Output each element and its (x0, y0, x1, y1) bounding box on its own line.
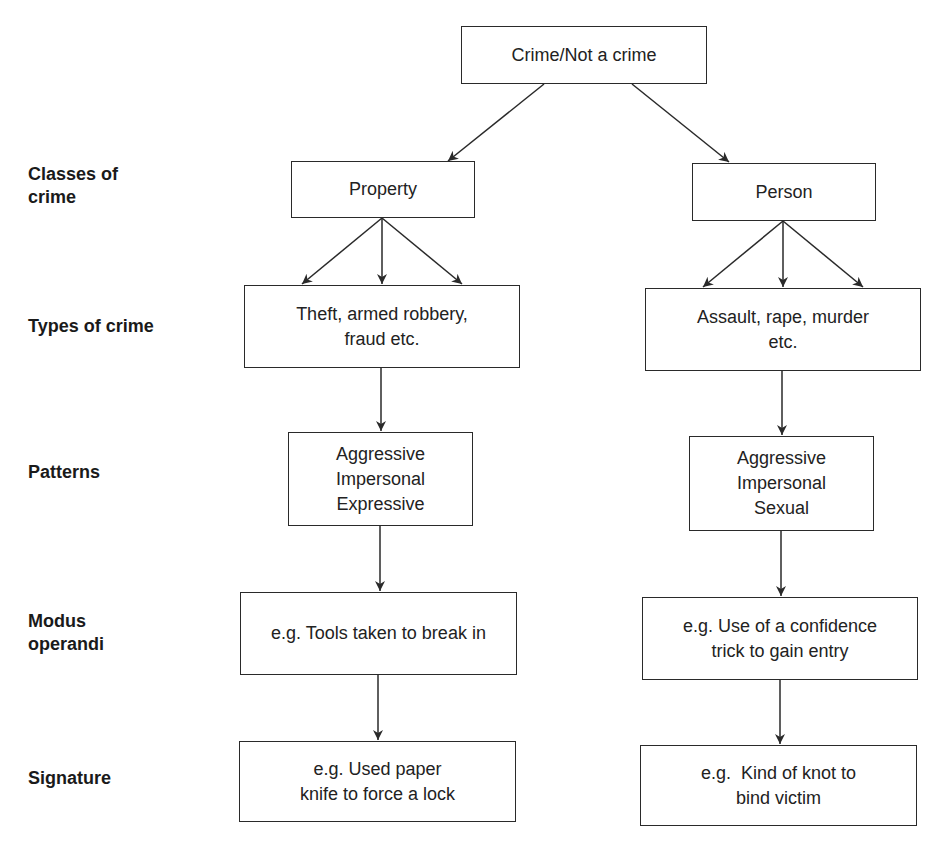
flowchart-canvas: Crime/Not a crime Classes of crime Types… (0, 0, 950, 852)
node-property: Property (291, 161, 475, 218)
node-person: Person (692, 163, 876, 221)
root-node-crime-not-a-crime: Crime/Not a crime (461, 26, 707, 84)
row-label-signature: Signature (28, 767, 111, 790)
node-person-patterns: Aggressive Impersonal Sexual (689, 436, 874, 531)
row-label-modus-operandi: Modus operandi (28, 610, 104, 656)
node-property-signature: e.g. Used paper knife to force a lock (239, 741, 516, 822)
node-person-types: Assault, rape, murder etc. (645, 288, 921, 371)
node-person-signature: e.g. Kind of knot to bind victim (640, 745, 917, 826)
row-label-classes-of-crime: Classes of crime (28, 163, 118, 209)
root-node-label: Crime/Not a crime (511, 43, 656, 68)
node-property-patterns: Aggressive Impersonal Expressive (288, 432, 473, 526)
row-label-patterns: Patterns (28, 461, 100, 484)
row-label-types-of-crime: Types of crime (28, 315, 154, 338)
node-property-modus-operandi: e.g. Tools taken to break in (240, 592, 517, 675)
connector-arrows (0, 0, 950, 852)
node-person-modus-operandi: e.g. Use of a confidence trick to gain e… (642, 597, 918, 680)
node-property-types: Theft, armed robbery, fraud etc. (244, 285, 520, 368)
